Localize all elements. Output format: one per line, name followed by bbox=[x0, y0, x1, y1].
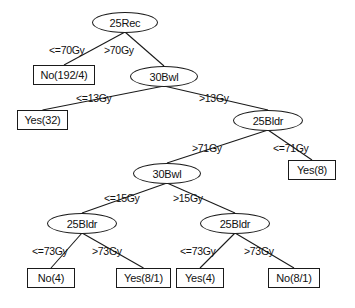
tree-edge-label-15gy: <=15Gy bbox=[104, 192, 140, 204]
tree-edge-label-73gy: >73Gy bbox=[92, 245, 122, 257]
tree-node-25bldr: 25Bldr bbox=[200, 213, 270, 234]
tree-leaf-no-8-1: No(8/1) bbox=[268, 268, 320, 288]
tree-leaf-yes-4: Yes(4) bbox=[176, 268, 224, 288]
tree-edge-label-73gy: <=73Gy bbox=[180, 245, 216, 257]
tree-node-25bldr: 25Bldr bbox=[47, 213, 117, 234]
tree-edge-label-13gy: >13Gy bbox=[199, 92, 229, 104]
tree-edge-label-73gy: <=73Gy bbox=[32, 245, 68, 257]
tree-edge-label-71gy: >71Gy bbox=[192, 142, 222, 154]
tree-node-30bwl: 30Bwl bbox=[133, 163, 201, 184]
tree-leaf-no-4: No(4) bbox=[27, 268, 75, 288]
tree-leaf-yes-8-1: Yes(8/1) bbox=[116, 268, 171, 288]
tree-edge-label-71gy: <=71Gy bbox=[273, 142, 309, 154]
tree-node-30bwl: 30Bwl bbox=[130, 66, 198, 87]
tree-edge-label-70gy: >70Gy bbox=[104, 44, 134, 56]
tree-edge-label-13gy: <=13Gy bbox=[76, 92, 112, 104]
tree-node-25rec: 25Rec bbox=[92, 12, 158, 33]
tree-leaf-yes-32: Yes(32) bbox=[17, 110, 68, 130]
tree-node-25bldr: 25Bldr bbox=[233, 110, 303, 131]
tree-edge-label-15gy: >15Gy bbox=[173, 192, 203, 204]
tree-leaf-no-192-4: No(192/4) bbox=[33, 65, 95, 85]
tree-edge-label-73gy: >73Gy bbox=[244, 245, 274, 257]
tree-edge-label-70gy: <=70Gy bbox=[49, 44, 85, 56]
decision-tree-diagram: 25RecNo(192/4)30BwlYes(32)25BldrYes(8)30… bbox=[0, 0, 355, 308]
tree-leaf-yes-8: Yes(8) bbox=[288, 160, 336, 180]
